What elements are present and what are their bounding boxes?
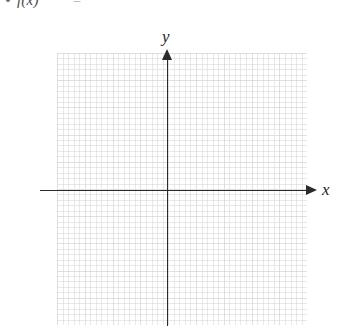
y-axis-line (167, 58, 168, 326)
x-axis-label: x (322, 180, 330, 200)
grid-background (57, 53, 307, 325)
x-axis-line (40, 190, 314, 191)
y-axis-label: y (162, 27, 170, 47)
y-axis-arrow-icon (162, 49, 172, 60)
coordinate-grid-graph: y x (0, 0, 344, 334)
x-axis-arrow-icon (306, 185, 317, 195)
